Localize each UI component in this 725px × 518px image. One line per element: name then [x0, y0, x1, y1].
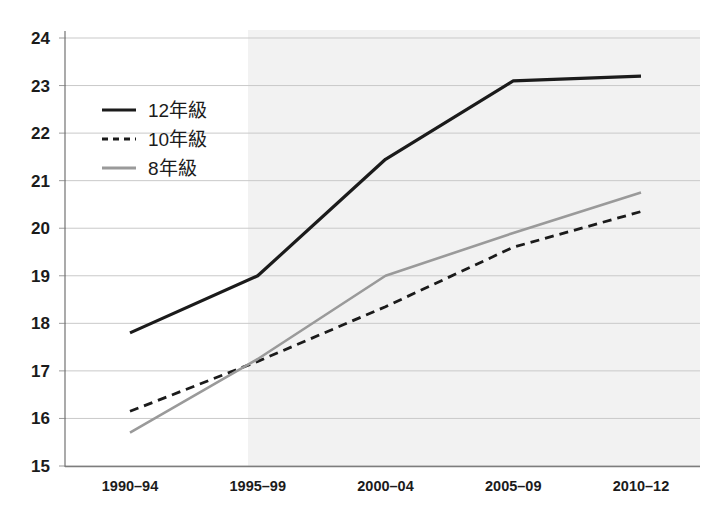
- legend-label-12年級: 12年級: [148, 100, 207, 121]
- y-axis-tick-label: 24: [31, 29, 50, 48]
- x-axis-tick-label: 1995–99: [230, 478, 286, 494]
- y-axis-tick-label: 20: [31, 219, 50, 238]
- x-axis-tick-label: 2000–04: [357, 478, 413, 494]
- y-axis-tick-label: 21: [31, 172, 50, 191]
- y-axis-tick-label: 16: [31, 409, 50, 428]
- x-axis-tick-label: 2010–12: [613, 478, 669, 494]
- x-axis-tick-label: 1990–94: [102, 478, 158, 494]
- line-chart: 15161718192021222324 1990–941995–992000–…: [0, 0, 725, 518]
- chart-canvas: 15161718192021222324 1990–941995–992000–…: [0, 0, 725, 518]
- y-axis-tick-label: 15: [31, 457, 50, 476]
- y-axis-tick-label: 18: [31, 314, 50, 333]
- legend-label-8年級: 8年級: [148, 158, 197, 179]
- x-axis-tick-label: 2005–09: [485, 478, 541, 494]
- y-axis-tick-label: 17: [31, 362, 50, 381]
- legend-label-10年級: 10年級: [148, 129, 207, 150]
- highlight-band: [248, 30, 700, 466]
- y-axis-tick-label: 23: [31, 77, 50, 96]
- y-axis-tick-label: 19: [31, 267, 50, 286]
- y-axis-tick-label: 22: [31, 124, 50, 143]
